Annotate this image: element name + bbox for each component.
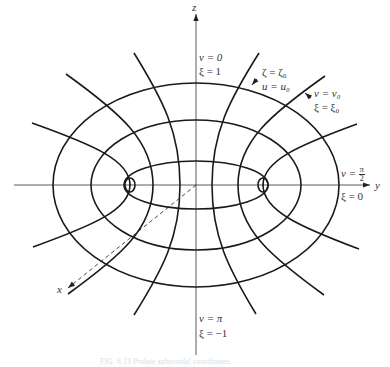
pi-over-2-fraction: π2 (359, 166, 365, 183)
pointer-v0-arrow-icon (305, 93, 312, 99)
focus-loop-right-focus-dot (262, 184, 264, 186)
hyperbola-right-inner (212, 53, 259, 314)
hyperbola-right-middle (238, 76, 325, 295)
label-v-pi: v = π (199, 313, 222, 324)
label-u-u0: u = u₀ (262, 81, 290, 92)
focus-loop-left-focus-dot (129, 184, 131, 186)
z-axis-arrow-icon (193, 14, 198, 21)
x-axis-arrow-icon (68, 282, 75, 288)
label-xi-one: ξ = 1 (199, 66, 221, 77)
hyperbola-left-inner (134, 53, 180, 315)
label-xi-xi0: ξ = ξ₀ (314, 102, 339, 113)
z-axis-label: z (192, 2, 196, 13)
y-axis-arrow-icon (363, 182, 370, 187)
pointer-u0-arrow-icon (252, 78, 258, 85)
hyperbolas (32, 53, 359, 315)
label-v-pi-half: v = π2 (341, 166, 365, 183)
figure-caption: FIG. 6.13 Prolate spheroidal coordinates… (100, 357, 300, 365)
hyperbola-right-outer (263, 124, 359, 249)
axes (14, 14, 370, 355)
label-zeta-zeta0: ζ = ζ₀ (262, 67, 287, 78)
hyperbola-left-middle (66, 74, 153, 294)
label-xi-minus-one: ξ = −1 (199, 328, 227, 339)
label-xi-zero: ξ = 0 (341, 191, 363, 202)
label-v-zero: v = 0 (199, 52, 222, 63)
prolate-spheroidal-diagram (0, 0, 390, 367)
x-axis-label: x (57, 284, 62, 295)
y-axis-label: y (375, 180, 380, 191)
label-v-v0: v = v₀ (314, 88, 341, 99)
